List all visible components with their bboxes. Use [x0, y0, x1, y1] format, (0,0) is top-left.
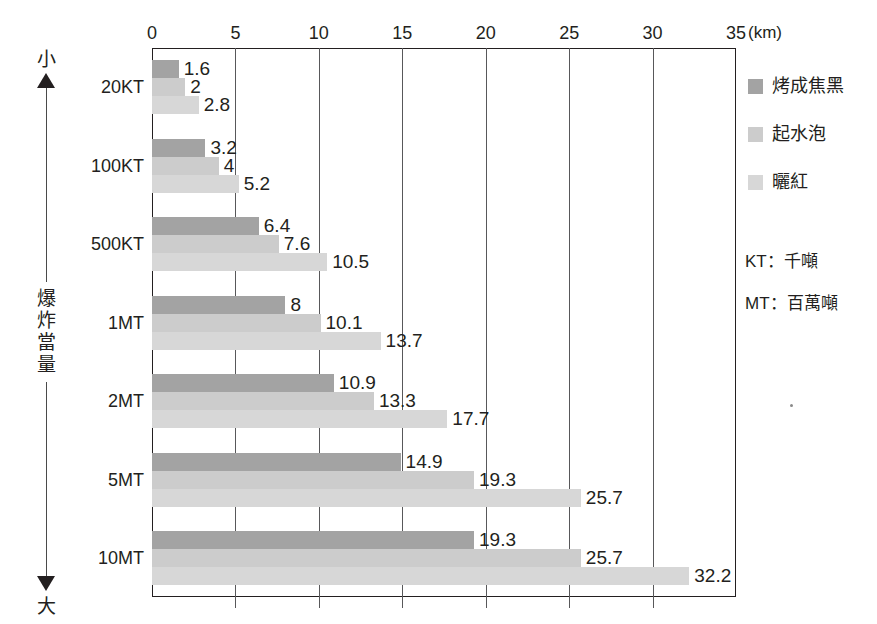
arrow-down-icon [37, 576, 55, 591]
bar-100KT-起水泡: 4 [152, 157, 219, 175]
category-label-10MT: 10MT [98, 548, 144, 568]
x-tick-label-5: 5 [230, 22, 240, 44]
bar-value-label: 17.7 [452, 409, 489, 429]
bar-20KT-曬紅: 2.8 [152, 96, 199, 114]
x-tick-label-10: 10 [309, 22, 329, 44]
x-tick-label-20: 20 [476, 22, 496, 44]
category-label-2MT: 2MT [108, 391, 144, 411]
bar-500KT-烤成焦黑: 6.4 [152, 217, 259, 235]
bar-group-1MT: 1MT810.113.7 [152, 296, 736, 350]
bar-2MT-烤成焦黑: 10.9 [152, 374, 334, 392]
bar-5MT-起水泡: 19.3 [152, 471, 474, 489]
bar-value-label: 10.5 [332, 252, 369, 272]
bar-2MT-起水泡: 13.3 [152, 392, 374, 410]
axis-tick-20 [486, 597, 487, 608]
axis-tick-5 [235, 597, 236, 608]
axis-tick-15 [402, 597, 403, 608]
scan-speck [790, 404, 793, 407]
unit-notes: KT：千噸MT：百萬噸 [745, 252, 877, 336]
bar-value-label: 13.3 [379, 391, 416, 411]
legend-item-起水泡: 起水泡 [748, 124, 877, 144]
bar-value-label: 19.3 [479, 470, 516, 490]
bar-10MT-曬紅: 32.2 [152, 567, 689, 585]
category-label-5MT: 5MT [108, 470, 144, 490]
bar-500KT-曬紅: 10.5 [152, 253, 327, 271]
legend-item-烤成焦黑: 烤成焦黑 [748, 76, 877, 96]
bar-1MT-烤成焦黑: 8 [152, 296, 285, 314]
unit-note-1: MT：百萬噸 [745, 294, 877, 314]
axis-tick-10 [319, 597, 320, 608]
bar-1MT-曬紅: 13.7 [152, 332, 381, 350]
axis-tick-25 [569, 597, 570, 608]
bar-group-100KT: 100KT3.245.2 [152, 139, 736, 193]
bar-10MT-烤成焦黑: 19.3 [152, 531, 474, 549]
bar-value-label: 7.6 [284, 234, 310, 254]
bar-value-label: 2 [190, 77, 201, 97]
category-label-20KT: 20KT [101, 77, 144, 97]
legend: 烤成焦黑起水泡曬紅 [748, 76, 877, 220]
bar-20KT-烤成焦黑: 1.6 [152, 60, 179, 78]
bar-group-500KT: 500KT6.47.610.5 [152, 217, 736, 271]
legend-label: 起水泡 [772, 124, 826, 144]
bar-value-label: 4 [224, 156, 235, 176]
legend-swatch-icon [748, 79, 763, 94]
unit-note-0: KT：千噸 [745, 252, 877, 272]
bar-value-label: 19.3 [479, 530, 516, 550]
bar-value-label: 25.7 [586, 488, 623, 508]
top-caption-remnant: ▔▔▔▔▔▔▔▔▔▔▔▔▔▔▔▔▔▔▔▔▔▔▔▔▔▔▔▔▔▔▔▔▔▔▔▔▔▔▔▔… [30, 0, 830, 9]
arrow-up-icon [37, 73, 55, 88]
bar-2MT-曬紅: 17.7 [152, 410, 447, 428]
bar-20KT-起水泡: 2 [152, 78, 185, 96]
bar-value-label: 2.8 [204, 95, 230, 115]
x-tick-label-15: 15 [392, 22, 412, 44]
bar-group-5MT: 5MT14.919.325.7 [152, 453, 736, 507]
plot-area: 20KT1.622.8100KT3.245.2500KT6.47.610.51M… [152, 48, 736, 597]
bar-value-label: 32.2 [694, 566, 731, 586]
x-tick-label-25: 25 [559, 22, 579, 44]
x-tick-label-30: 30 [643, 22, 663, 44]
bar-value-label: 8 [290, 295, 301, 315]
bar-1MT-起水泡: 10.1 [152, 314, 321, 332]
y-axis-large-label: 大 [24, 597, 68, 616]
y-axis-yield: 小 爆炸當量 大 [24, 46, 68, 618]
bar-value-label: 14.9 [406, 452, 443, 472]
category-label-100KT: 100KT [91, 156, 144, 176]
bar-group-20KT: 20KT1.622.8 [152, 60, 736, 114]
x-tick-label-35: 35 [726, 22, 746, 44]
legend-label: 烤成焦黑 [772, 76, 844, 96]
bar-value-label: 10.9 [339, 373, 376, 393]
bar-5MT-烤成焦黑: 14.9 [152, 453, 401, 471]
bar-value-label: 5.2 [244, 174, 270, 194]
bar-10MT-起水泡: 25.7 [152, 549, 581, 567]
category-label-500KT: 500KT [91, 234, 144, 254]
x-axis-tick-labels: 05101520253035(km) [152, 22, 752, 46]
bar-value-label: 10.1 [326, 313, 363, 333]
axis-tick-30 [653, 597, 654, 608]
legend-item-曬紅: 曬紅 [748, 172, 877, 192]
bar-value-label: 13.7 [386, 331, 423, 351]
legend-swatch-icon [748, 127, 763, 142]
bar-group-10MT: 10MT19.325.732.2 [152, 531, 736, 585]
legend-swatch-icon [748, 175, 763, 190]
chart-page: ▔▔▔▔▔▔▔▔▔▔▔▔▔▔▔▔▔▔▔▔▔▔▔▔▔▔▔▔▔▔▔▔▔▔▔▔▔▔▔▔… [0, 0, 877, 624]
bar-5MT-曬紅: 25.7 [152, 489, 581, 507]
y-axis-small-label: 小 [24, 50, 68, 69]
x-tick-label-0: 0 [147, 22, 157, 44]
bar-500KT-起水泡: 7.6 [152, 235, 279, 253]
y-axis-title: 爆炸當量 [32, 282, 60, 382]
bar-100KT-曬紅: 5.2 [152, 175, 239, 193]
bar-value-label: 25.7 [586, 548, 623, 568]
legend-label: 曬紅 [772, 172, 808, 192]
bar-100KT-烤成焦黑: 3.2 [152, 139, 205, 157]
bar-group-2MT: 2MT10.913.317.7 [152, 374, 736, 428]
category-label-1MT: 1MT [108, 313, 144, 333]
x-axis-unit: (km) [748, 22, 782, 44]
